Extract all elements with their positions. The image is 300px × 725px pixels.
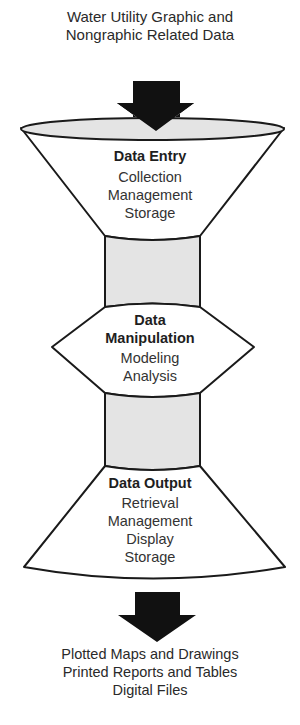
pipe-segment-1 <box>105 236 200 307</box>
data-entry-title: Data Entry <box>0 148 300 165</box>
data-output-title: Data Output <box>0 475 300 492</box>
data-entry-item: Management <box>0 186 300 204</box>
pipe-segment-2 <box>105 393 200 470</box>
data-manipulation-item: Modeling <box>0 349 300 367</box>
input-data-label: Water Utility Graphic and Nongraphic Rel… <box>0 8 300 44</box>
data-output-item: Management <box>0 512 300 530</box>
data-manipulation-item: Analysis <box>0 367 300 385</box>
data-output-stage: Data Output Retrieval Management Display… <box>0 475 300 566</box>
data-manipulation-title-line-1: Data <box>0 311 300 329</box>
data-output-item: Retrieval <box>0 494 300 512</box>
data-output-item: Storage <box>0 548 300 566</box>
input-line-2: Nongraphic Related Data <box>0 26 300 44</box>
data-manipulation-stage: Data Manipulation Modeling Analysis <box>0 311 300 385</box>
output-products-label: Plotted Maps and Drawings Printed Report… <box>0 645 300 699</box>
input-line-1: Water Utility Graphic and <box>0 8 300 26</box>
down-arrow-icon-bottom <box>118 592 196 642</box>
output-line-1: Plotted Maps and Drawings <box>0 645 300 663</box>
data-entry-item: Storage <box>0 204 300 222</box>
data-manipulation-title-line-2: Manipulation <box>0 329 300 347</box>
data-entry-item: Collection <box>0 168 300 186</box>
data-output-item: Display <box>0 530 300 548</box>
output-line-2: Printed Reports and Tables <box>0 663 300 681</box>
data-entry-stage: Data Entry Collection Management Storage <box>0 148 300 222</box>
output-line-3: Digital Files <box>0 681 300 699</box>
